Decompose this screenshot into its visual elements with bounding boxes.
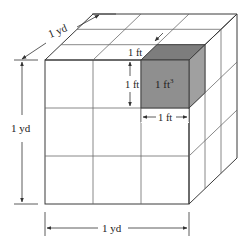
shaded-cubic-foot: 1 ft3 xyxy=(141,45,205,108)
cell-height-ft-dimension: 1 ft xyxy=(125,62,140,106)
right-face xyxy=(189,14,237,204)
cell-height-ft-label: 1 ft xyxy=(125,79,139,90)
width-yd-label: 1 yd xyxy=(102,222,122,234)
cubic-yard-diagram: 1 ft3 1 yd 1 yd 1 yd 1 ft 1 ft xyxy=(0,0,252,246)
width-yd-dimension: 1 yd xyxy=(45,212,189,236)
cell-depth-ft-label: 1 ft xyxy=(128,47,142,58)
height-yd-dimension: 1 yd xyxy=(11,62,38,204)
cell-width-ft-dimension: 1 ft xyxy=(141,108,189,123)
height-yd-label: 1 yd xyxy=(11,122,31,134)
depth-yd-label: 1 yd xyxy=(46,21,69,40)
cell-width-ft-label: 1 ft xyxy=(158,112,172,123)
